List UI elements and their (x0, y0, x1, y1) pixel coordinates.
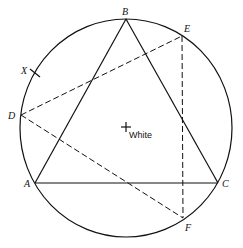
label-A: A (23, 178, 31, 189)
segment-BC (126, 19, 218, 183)
label-B: B (122, 6, 128, 17)
segment-DF (21, 115, 183, 218)
label-X: X (20, 65, 28, 76)
label-F: F (184, 222, 192, 233)
label-D: D (7, 110, 16, 121)
x-tick-mark (30, 69, 40, 77)
diagram-canvas: A B C D E F X White (0, 0, 243, 248)
label-C: C (222, 178, 229, 189)
segment-EF (182, 36, 183, 218)
label-E: E (183, 23, 190, 34)
label-white: White (129, 130, 152, 140)
